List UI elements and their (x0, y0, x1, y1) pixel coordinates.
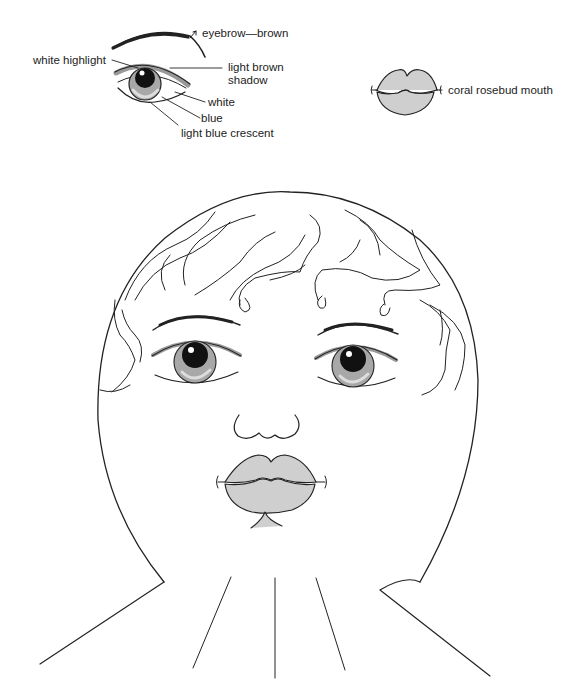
left-eye (152, 341, 241, 383)
label-eyebrow: eyebrow—brown (202, 27, 288, 40)
label-white-highlight: white highlight (33, 54, 106, 67)
detail-mouth (371, 70, 442, 115)
left-shoulder (40, 582, 164, 664)
chest-line-right (316, 578, 345, 670)
detail-eye (112, 31, 222, 125)
label-light-blue-crescent: light blue crescent (181, 127, 274, 140)
detail-pupil (135, 68, 155, 88)
doll-head (40, 192, 490, 678)
label-light-brown-shadow: light brown shadow (228, 61, 284, 87)
right-eye (315, 345, 397, 387)
detail-highlight (140, 71, 145, 76)
mouth (217, 455, 327, 528)
label-light-brown-line1: light brown (228, 61, 284, 74)
label-coral-rosebud-mouth: coral rosebud mouth (448, 84, 553, 97)
doll-face-illustration (0, 0, 580, 695)
chin-dimple (251, 512, 282, 528)
head-outline (98, 192, 478, 582)
label-white: white (208, 96, 235, 109)
label-blue: blue (201, 112, 223, 125)
nose (234, 415, 299, 438)
chest-line-left (193, 577, 231, 668)
label-light-brown-line2: shadow (228, 74, 284, 87)
hair-curls (100, 210, 465, 395)
right-shoulder (380, 580, 490, 676)
right-eyebrow (318, 325, 398, 335)
